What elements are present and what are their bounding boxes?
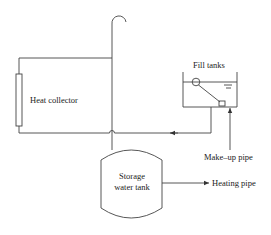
fill-tanks-label: Fill tanks bbox=[193, 61, 225, 70]
vent-pipe bbox=[112, 16, 126, 150]
heating-pipe-label: Heating pipe bbox=[212, 179, 256, 188]
return-pipe bbox=[19, 126, 211, 133]
diagram-canvas bbox=[0, 0, 271, 235]
heat-collector-panel bbox=[16, 74, 22, 126]
heat-collector-label: Heat collector bbox=[30, 96, 78, 105]
storage-tank-label-line1: Storage bbox=[101, 172, 163, 181]
makeup-pipe-label: Make–up pipe bbox=[204, 153, 253, 162]
float-lever bbox=[199, 85, 221, 102]
storage-tank-label-line2: water tank bbox=[101, 183, 163, 192]
fill-tank-body bbox=[183, 72, 237, 107]
collector-supply-pipe bbox=[19, 58, 112, 74]
